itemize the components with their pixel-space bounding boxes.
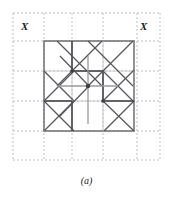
symmetry-node-2 — [101, 99, 105, 103]
figure-caption: (a) — [0, 176, 173, 186]
figure-container: X X (a) — [0, 0, 173, 200]
symmetry-node-0 — [70, 69, 74, 73]
symmetry-node-1 — [86, 84, 90, 88]
label-x-left: X — [21, 21, 28, 32]
mirror-plane-lines — [57, 56, 118, 124]
label-x-right: X — [140, 21, 147, 32]
